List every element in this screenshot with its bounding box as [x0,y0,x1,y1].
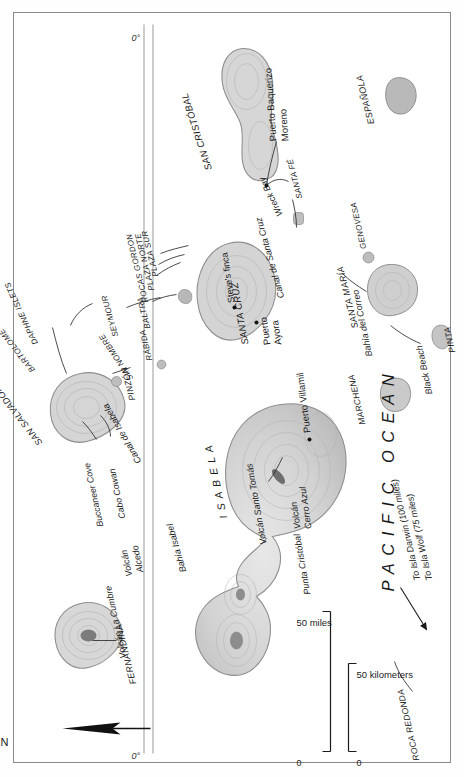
label-seymour: SEYMOUR [100,293,120,337]
label-black-beach: Black Beach [414,344,434,395]
scale-km-zero: 0 [356,757,361,767]
label-puerto-baquerizo-line2: Moreno [278,108,291,141]
map-root: 0° 0° [0,0,464,777]
island-shape-baltra [176,286,194,306]
island-shape-genovesa [360,249,376,265]
label-san-salvador: SAN SALVADOR [0,383,44,447]
scale-km-label: 50 kilometers [356,669,413,680]
scale-miles-label: 50 miles [296,617,331,628]
label-santa-fe: SANTA FÉ [286,157,305,199]
map-rotation-wrapper: 0° 0° [0,0,464,777]
equator-label-left: 0° [131,750,140,760]
scale-miles-zero: 0 [296,757,301,767]
to-darwin-arrow-icon [392,581,436,639]
scale-bar [308,571,378,761]
equator-label-right: 0° [131,32,140,42]
label-san-cristobal: SAN CRISTÓBAL [179,91,214,171]
island-shape-santa-maria [362,259,422,321]
label-genovesa: GENOVESA [349,201,368,249]
label-cabo-cowan: Cabo Cowan [107,467,127,519]
label-puerto-ayora-line2: Ayora [270,319,284,345]
north-arrow-label: N [0,735,8,747]
north-arrow [58,713,158,743]
map-canvas: 0° 0° [0,0,464,777]
island-shape-rabida [154,357,168,371]
island-shape-espanola [380,73,420,117]
label-espanola: ESPAÑOLA [354,73,376,125]
label-roca-redonda: ROCA REDONDA [396,687,422,761]
equator-line-upper [143,24,144,753]
label-buccaneer-cove: Buccaneer Cove [82,461,105,527]
dot-puerto-villamil [307,437,311,441]
island-shape-santa-fe [290,209,306,227]
